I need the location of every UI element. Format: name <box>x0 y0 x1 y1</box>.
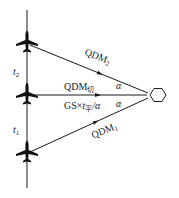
qdm-tangent-label: QDM切 <box>64 82 94 94</box>
t1-label: t1 <box>13 125 19 137</box>
gs-formula-label: GS×t平/α <box>64 101 100 113</box>
airplane-icon <box>16 31 38 53</box>
navaid-station-icon <box>150 89 166 102</box>
t2-label: t2 <box>13 67 19 79</box>
alpha-upper-label: α <box>116 81 121 91</box>
diagram-canvas <box>0 0 179 198</box>
alpha-lower-label: α <box>116 99 121 109</box>
airplane-icon <box>16 141 38 163</box>
airplane-icon <box>16 83 38 105</box>
